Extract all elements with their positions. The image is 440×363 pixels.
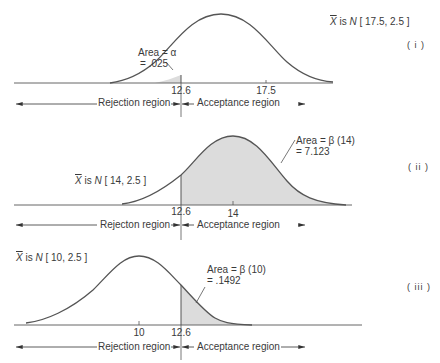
panel-iii-distribution-label: X is N [ 10, 2.5 ] bbox=[16, 252, 87, 263]
panel-iii-tick-10: 10 bbox=[133, 327, 144, 338]
hypothesis-test-figure bbox=[0, 0, 440, 363]
panel-i-acceptance-region: Acceptance region bbox=[196, 97, 281, 108]
panel-ii-tick-12-6: 12.6 bbox=[171, 206, 190, 217]
panel-i-area-value: = .025 bbox=[140, 58, 168, 69]
panel-iii-chart bbox=[14, 256, 362, 360]
panel-ii-tick-14: 14 bbox=[227, 208, 238, 219]
panel-iii-acceptance-region: Acceptance region bbox=[196, 341, 281, 352]
panel-iii-tick-12-6: 12.6 bbox=[171, 327, 190, 338]
panel-iii-area-label: Area = β (10) bbox=[207, 264, 266, 275]
panel-iii-area-value: = .1492 bbox=[207, 275, 241, 286]
panel-i-distribution-label: X is N [ 17.5, 2.5 ] bbox=[330, 16, 410, 27]
panel-i-chart bbox=[14, 14, 333, 117]
panel-ii-acceptance-region: Acceptance region bbox=[196, 219, 281, 230]
panel-iii-id: ( iii ) bbox=[407, 282, 431, 292]
panel-ii-rejection-region: Rejecton region bbox=[99, 219, 171, 230]
panel-i-alpha-area bbox=[155, 75, 181, 83]
panel-ii-area-value: = 7.123 bbox=[296, 146, 330, 157]
panel-ii-id: ( ii ) bbox=[408, 162, 429, 172]
panel-i-rejection-region: Rejection region bbox=[97, 97, 171, 108]
panel-ii-distribution-label: X is N [ 14, 2.5 ] bbox=[75, 175, 146, 186]
panel-ii-area-label: Area = β (14) bbox=[296, 135, 355, 146]
panel-i-area-label: Area = α bbox=[138, 47, 176, 58]
panel-i-tick-17-5: 17.5 bbox=[256, 85, 275, 96]
panel-i-tick-12-6: 12.6 bbox=[171, 85, 190, 96]
panel-iii-rejection-region: Rejection region bbox=[97, 341, 171, 352]
panel-i-id: ( i ) bbox=[407, 40, 425, 50]
